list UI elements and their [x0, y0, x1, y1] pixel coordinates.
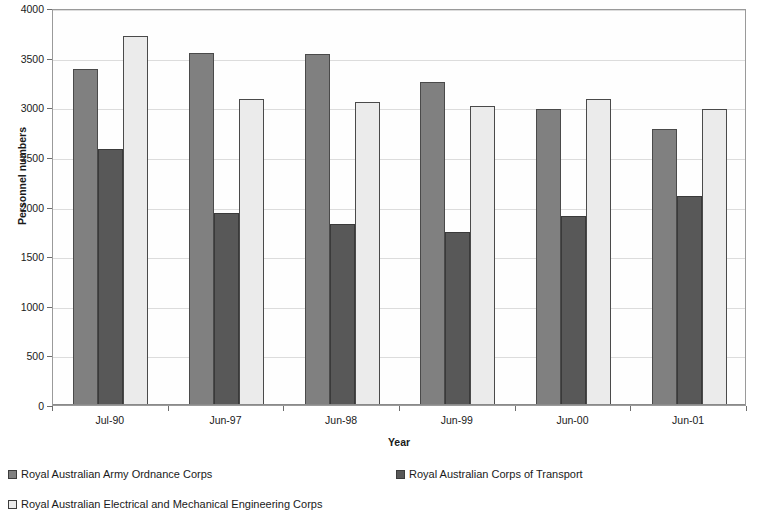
x-axis-tick-mark [746, 406, 747, 411]
x-axis-tick-label: Jul-90 [70, 414, 150, 426]
legend-item-label: Royal Australian Army Ordnance Corps [21, 468, 212, 480]
legend-swatch-icon [396, 470, 405, 479]
bar [305, 54, 330, 405]
legend-item-army-ordnance-corps: Royal Australian Army Ordnance Corps [8, 468, 212, 480]
plot-area [52, 9, 746, 406]
y-axis-tick-label: 1000 [0, 302, 44, 312]
bar [652, 129, 677, 405]
x-axis-tick-mark [52, 406, 53, 411]
gridline [53, 159, 745, 160]
bar [330, 224, 355, 405]
gridline [53, 258, 745, 259]
bar [98, 149, 123, 405]
bar [561, 216, 586, 405]
bar [586, 99, 611, 405]
y-axis-tick-mark [47, 158, 52, 159]
x-axis-tick-mark [399, 406, 400, 411]
y-axis-tick-mark [47, 9, 52, 10]
bar [702, 109, 727, 405]
bar [445, 232, 470, 405]
bar [123, 36, 148, 405]
bar [420, 82, 445, 405]
bar [536, 109, 561, 405]
y-axis-tick-label: 0 [0, 401, 44, 411]
bar [355, 102, 380, 405]
x-axis-tick-label: Jun-00 [533, 414, 613, 426]
x-axis-tick-mark [168, 406, 169, 411]
bar [189, 53, 214, 405]
x-axis-tick-label: Jun-99 [417, 414, 497, 426]
bar-chart-figure: 05001000150020002500300035004000 Personn… [0, 0, 762, 518]
legend-item-label: Royal Australian Electrical and Mechanic… [21, 498, 322, 510]
bar [677, 196, 702, 405]
y-axis-tick-mark [47, 108, 52, 109]
x-axis-tick-mark [630, 406, 631, 411]
gridline [53, 209, 745, 210]
gridline [53, 357, 745, 358]
x-axis-tick-label: Jun-97 [186, 414, 266, 426]
y-axis-tick-label: 3500 [0, 54, 44, 64]
x-axis-tick-mark [515, 406, 516, 411]
y-axis-tick-mark [47, 356, 52, 357]
legend-swatch-icon [8, 500, 17, 509]
gridline [53, 10, 745, 11]
legend-item-electrical-mechanical-engineering-corps: Royal Australian Electrical and Mechanic… [8, 498, 322, 510]
x-axis-title: Year [52, 436, 746, 448]
y-axis-tick-label: 500 [0, 351, 44, 361]
y-axis-tick-mark [47, 257, 52, 258]
y-axis-title: Personnel numbers [16, 106, 28, 246]
x-axis-tick-label: Jun-01 [648, 414, 728, 426]
bar [73, 69, 98, 405]
legend-item-label: Royal Australian Corps of Transport [409, 468, 583, 480]
y-axis-tick-label: 4000 [0, 4, 44, 14]
gridline [53, 109, 745, 110]
bar [214, 213, 239, 405]
x-axis-baseline [53, 404, 745, 405]
y-axis-tick-mark [47, 59, 52, 60]
gridline [53, 60, 745, 61]
x-axis-tick-mark [283, 406, 284, 411]
y-axis-tick-mark [47, 307, 52, 308]
legend-item-corps-of-transport: Royal Australian Corps of Transport [396, 468, 583, 480]
y-axis-tick-mark [47, 208, 52, 209]
bar [239, 99, 264, 405]
y-axis-tick-label: 1500 [0, 252, 44, 262]
x-axis-tick-label: Jun-98 [301, 414, 381, 426]
gridline [53, 308, 745, 309]
bar [470, 106, 495, 405]
legend-swatch-icon [8, 470, 17, 479]
